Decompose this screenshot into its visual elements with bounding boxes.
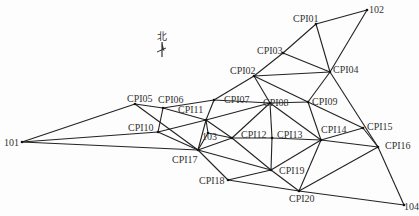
- node-label: CPI14: [321, 124, 347, 135]
- node-point-icon: [213, 99, 216, 102]
- north-label: 北: [157, 31, 167, 42]
- node-CPI19: CPI19: [270, 165, 305, 176]
- edge-CPI18-CPI20: [228, 180, 299, 191]
- node-label: 101: [4, 137, 19, 148]
- edge-CPI16-CPI20: [299, 147, 378, 191]
- node-label: CPI10: [128, 122, 154, 133]
- node-point-icon: [157, 131, 160, 134]
- node-CPI08: CPI08: [263, 97, 289, 108]
- node-label: CPI07: [224, 94, 250, 105]
- node-103: 103: [202, 131, 217, 142]
- node-CPI04: CPI04: [329, 64, 359, 75]
- node-label: CPI13: [277, 129, 303, 140]
- edge-CPI17-CPI19: [198, 150, 271, 170]
- node-CPI07: CPI07: [213, 94, 250, 105]
- node-point-icon: [298, 190, 301, 193]
- nodes-layer: 101102103104CPI01CPI02CPI03CPI04CPI05CPI…: [4, 4, 419, 212]
- node-CPI15: CPI15: [362, 121, 393, 132]
- node-point-icon: [329, 71, 332, 74]
- node-label: 103: [202, 131, 217, 142]
- node-CPI03: CPI03: [257, 45, 284, 56]
- edge-101-CPI10: [22, 132, 158, 142]
- node-label: 102: [369, 4, 384, 15]
- edge-CPI01-CPI03: [283, 24, 316, 53]
- edge-CPI01-CPI04: [316, 24, 330, 72]
- node-label: 104: [404, 201, 419, 212]
- node-point-icon: [270, 169, 273, 172]
- node-label: CPI04: [333, 64, 359, 75]
- node-label: CPI12: [241, 129, 267, 140]
- node-101: 101: [4, 137, 23, 148]
- edge-CPI05-101: [22, 104, 135, 142]
- node-CPI02: CPI02: [230, 65, 256, 77]
- node-label: CPI17: [172, 154, 198, 165]
- node-CPI10: CPI10: [128, 122, 159, 133]
- edge-CPI18-CPI19: [228, 170, 271, 180]
- node-point-icon: [307, 101, 310, 104]
- edge-CPI08-CPI13: [270, 103, 272, 138]
- edge-CPI06-CPI10: [158, 108, 163, 132]
- node-label: CPI16: [385, 140, 411, 151]
- node-point-icon: [21, 141, 24, 144]
- node-point-icon: [205, 119, 208, 122]
- edge-CPI14-CPI16: [321, 140, 378, 147]
- node-104: 104: [403, 201, 419, 212]
- edge-CPI02-CPI04: [254, 72, 330, 76]
- node-label: CPI19: [279, 165, 305, 176]
- north-arrow: 北: [157, 31, 167, 57]
- node-point-icon: [162, 107, 165, 110]
- network-svg: 101102103104CPI01CPI02CPI03CPI04CPI05CPI…: [0, 0, 419, 216]
- edge-CPI03-CPI04: [283, 53, 330, 72]
- edge-CPI10-CPI17: [158, 132, 198, 150]
- node-label: CPI15: [367, 121, 393, 132]
- control-network-diagram: 101102103104CPI01CPI02CPI03CPI04CPI05CPI…: [0, 0, 419, 216]
- node-CPI01: CPI01: [293, 13, 319, 25]
- node-CPI17: CPI17: [172, 149, 199, 165]
- node-point-icon: [320, 139, 323, 142]
- edge-CPI16-104: [378, 147, 404, 205]
- node-point-icon: [362, 127, 365, 130]
- edge-CPI13-CPI19: [271, 138, 272, 170]
- node-point-icon: [227, 179, 230, 182]
- node-label: CPI02: [230, 65, 256, 76]
- node-label: CPI18: [199, 175, 225, 186]
- node-label: CPI08: [263, 97, 289, 108]
- node-point-icon: [377, 146, 380, 149]
- edge-CPI20-104: [299, 191, 404, 205]
- node-point-icon: [197, 149, 200, 152]
- node-CPI16: CPI16: [377, 140, 411, 151]
- edge-102-CPI04: [330, 10, 367, 72]
- edge-CPI03-CPI02: [254, 53, 283, 76]
- node-label: CPI01: [293, 13, 319, 24]
- node-102: 102: [366, 4, 384, 15]
- node-label: CPI05: [127, 93, 153, 104]
- north-arrow-icon: [157, 42, 166, 57]
- edge-101-CPI17: [22, 142, 198, 150]
- node-CPI09: CPI09: [307, 96, 338, 107]
- node-label: CPI03: [257, 45, 283, 56]
- node-point-icon: [231, 137, 234, 140]
- node-point-icon: [366, 9, 369, 12]
- edge-CPI07-CPI11: [206, 100, 214, 120]
- node-label: CPI09: [312, 96, 338, 107]
- node-label: CPI20: [289, 193, 315, 204]
- node-point-icon: [271, 137, 274, 140]
- node-CPI05: CPI05: [127, 93, 153, 105]
- node-label: CPI11: [178, 104, 203, 115]
